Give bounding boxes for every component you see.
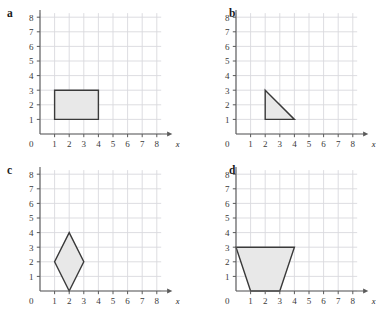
x-tick-label: 4 [96, 296, 101, 306]
y-tick-label: 2 [29, 100, 34, 110]
x-tick-label: 6 [125, 139, 130, 149]
y-tick-label: 5 [225, 213, 230, 223]
y-tick-label: 7 [225, 27, 230, 37]
y-tick-label: 6 [29, 199, 34, 209]
origin-label: 0 [29, 296, 34, 306]
y-tick-label: 4 [225, 228, 230, 238]
origin-label: 0 [225, 139, 230, 149]
panel-c-label: c [7, 165, 12, 177]
y-tick-label: 4 [29, 228, 34, 238]
y-tick-label: 1 [29, 115, 34, 125]
axes [38, 167, 173, 294]
shape-trapezoid [236, 247, 294, 291]
x-tick-label: 5 [307, 139, 312, 149]
y-tick-label: 4 [29, 71, 34, 81]
y-tick-label: 1 [225, 115, 230, 125]
x-tick-label: 8 [351, 296, 356, 306]
y-tick-label: 3 [29, 243, 34, 253]
coordinate-grid-b: 12345678123456780xy [210, 10, 378, 150]
x-tick-label: 4 [292, 296, 297, 306]
x-tick-label: 8 [155, 139, 160, 149]
x-tick-label: 2 [67, 296, 72, 306]
x-tick-label: 7 [140, 139, 145, 149]
grid-lines [236, 13, 357, 134]
coordinate-grid-d: 12345678123456780xy [210, 167, 378, 307]
y-tick-label: 7 [29, 184, 34, 194]
x-axis-label: x [175, 296, 180, 306]
x-tick-label: 3 [278, 139, 283, 149]
y-tick-label: 3 [225, 243, 230, 253]
y-tick-label: 1 [225, 272, 230, 282]
y-tick-label: 8 [225, 13, 230, 23]
panel-d-plot: 12345678123456780xy [210, 167, 378, 307]
grid-lines [40, 170, 161, 291]
y-tick-label: 8 [29, 13, 34, 23]
x-tick-label: 8 [351, 139, 356, 149]
origin-label: 0 [225, 296, 230, 306]
x-tick-label: 2 [263, 139, 268, 149]
y-tick-label: 3 [29, 86, 34, 96]
x-tick-label: 6 [321, 139, 326, 149]
x-tick-label: 3 [82, 296, 87, 306]
x-tick-label: 4 [292, 139, 297, 149]
figure-four-coordinate-grids: a 12345678123456780xy b 1234567812345678… [0, 0, 392, 314]
panel-a-label: a [7, 8, 13, 20]
panel-c-plot: 12345678123456780xy [14, 167, 182, 307]
x-tick-label: 5 [307, 296, 312, 306]
y-tick-label: 5 [29, 213, 34, 223]
x-tick-label: 7 [336, 296, 341, 306]
panel-a-plot: 12345678123456780xy [14, 10, 182, 150]
shape-rhombus [55, 233, 84, 291]
y-tick-label: 7 [29, 27, 34, 37]
panel-d: d 12345678123456780xy [196, 157, 392, 314]
x-tick-label: 3 [82, 139, 87, 149]
y-tick-label: 7 [225, 184, 230, 194]
axes [234, 10, 369, 137]
panel-b-plot: 12345678123456780xy [210, 10, 378, 150]
y-tick-label: 2 [225, 100, 230, 110]
coordinate-grid-a: 12345678123456780xy [14, 10, 182, 150]
x-tick-label: 1 [248, 139, 253, 149]
x-tick-label: 7 [336, 139, 341, 149]
x-tick-label: 5 [111, 296, 116, 306]
y-tick-label: 6 [225, 42, 230, 52]
x-tick-label: 8 [155, 296, 160, 306]
y-tick-label: 6 [29, 42, 34, 52]
x-axis-label: x [175, 139, 180, 149]
x-tick-label: 4 [96, 139, 101, 149]
coordinate-grid-c: 12345678123456780xy [14, 167, 182, 307]
x-axis-label: x [371, 139, 376, 149]
x-tick-label: 1 [248, 296, 253, 306]
y-tick-label: 4 [225, 71, 230, 81]
panel-b: b 12345678123456780xy [196, 0, 392, 157]
origin-label: 0 [29, 139, 34, 149]
y-tick-label: 3 [225, 86, 230, 96]
x-tick-label: 2 [67, 139, 72, 149]
x-tick-label: 3 [278, 296, 283, 306]
y-tick-label: 5 [225, 56, 230, 66]
x-tick-label: 6 [321, 296, 326, 306]
x-tick-label: 7 [140, 296, 145, 306]
shape-rectangle [55, 90, 99, 119]
y-tick-label: 8 [225, 170, 230, 180]
y-tick-label: 2 [29, 257, 34, 267]
y-tick-label: 6 [225, 199, 230, 209]
panel-c: c 12345678123456780xy [0, 157, 196, 314]
y-tick-label: 1 [29, 272, 34, 282]
x-tick-label: 1 [52, 139, 57, 149]
x-tick-label: 6 [125, 296, 130, 306]
y-tick-label: 2 [225, 257, 230, 267]
panel-a: a 12345678123456780xy [0, 0, 196, 157]
y-tick-label: 8 [29, 170, 34, 180]
y-tick-label: 5 [29, 56, 34, 66]
x-tick-label: 2 [263, 296, 268, 306]
x-tick-label: 1 [52, 296, 57, 306]
x-axis-label: x [371, 296, 376, 306]
x-tick-label: 5 [111, 139, 116, 149]
